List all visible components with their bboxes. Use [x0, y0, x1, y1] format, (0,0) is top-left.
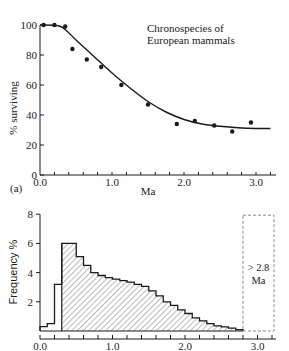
older-than-label-line-1: > 2.8 [248, 262, 270, 273]
older-than-label-line-2: Ma [252, 275, 266, 286]
figure: 0204060801000.01.02.03.0 Chronospecies o… [0, 0, 289, 351]
older-than-box [243, 215, 274, 331]
chart-title-line-1: Chronospecies of [147, 22, 224, 34]
data-point [212, 123, 216, 127]
survival-chart: 0204060801000.01.02.03.0 Chronospecies o… [7, 19, 276, 197]
data-point [230, 129, 234, 133]
y-axis-label: % surviving [7, 81, 19, 135]
y-tick-label: 40 [26, 109, 38, 121]
histogram-x-tick-label: 3.0 [251, 340, 265, 351]
y-tick-label: 20 [26, 139, 38, 151]
data-point [41, 23, 45, 27]
x-tick-label: 1.0 [105, 176, 119, 188]
x-tick-label: 3.0 [249, 176, 263, 188]
y-tick-label: 60 [26, 79, 38, 91]
histogram-x-tick-label: 1.0 [106, 340, 120, 351]
histogram-x-tick-label: 2.0 [178, 340, 192, 351]
histogram-y-tick-label: 6 [28, 237, 34, 249]
data-point [63, 24, 67, 28]
histogram-y-tick-label: 4 [28, 267, 34, 279]
data-point [52, 23, 56, 27]
chart-title-line-2: European mammals [147, 34, 235, 46]
data-point [85, 57, 89, 61]
x-tick-label: 0.0 [33, 176, 47, 188]
y-tick-label: 80 [26, 49, 38, 61]
histogram-y-axis-label: Frequency % [7, 239, 19, 304]
panel-label-a: (a) [10, 182, 23, 195]
data-point [146, 102, 150, 106]
hatched-histogram [62, 243, 243, 331]
x-tick-label: 2.0 [177, 176, 191, 188]
x-axis-label: Ma [141, 185, 156, 197]
histogram-x-tick-label: 0.0 [33, 340, 47, 351]
data-point [193, 119, 197, 123]
data-point [175, 122, 179, 126]
data-point [70, 47, 74, 51]
histogram-y-tick-label: 2 [28, 296, 34, 308]
data-point [99, 65, 103, 69]
data-point [249, 120, 253, 124]
histogram-y-tick-label: 8 [28, 208, 34, 220]
data-point [119, 83, 123, 87]
frequency-histogram: > 2.8 Ma 24680.01.02.03.0 Frequency % [7, 208, 276, 351]
y-tick-label: 100 [21, 19, 38, 31]
